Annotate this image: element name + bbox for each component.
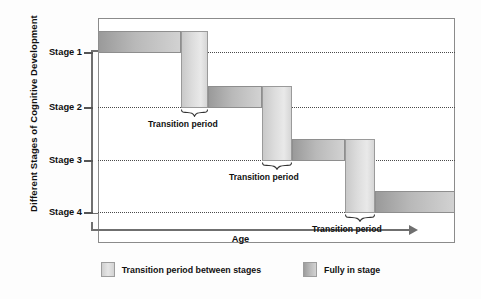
bar-fully-in-stage-1 — [98, 31, 181, 53]
y-tick-stage-1 — [84, 52, 93, 54]
y-tick-stage-2 — [84, 107, 93, 109]
legend-swatch-transition-icon — [101, 262, 115, 277]
bar-transition-1-to-2 — [181, 31, 208, 108]
brace-icon-transition-3 — [345, 214, 375, 222]
bar-fully-in-stage-4 — [375, 191, 455, 213]
y-tick-stage-3 — [84, 160, 93, 162]
legend-item-fully-in-stage: Fully in stage — [303, 262, 380, 277]
bar-transition-2-to-3 — [262, 86, 292, 161]
y-axis-line — [91, 50, 93, 214]
legend-swatch-stage-icon — [303, 262, 317, 277]
x-axis-title: Age — [0, 234, 481, 244]
y-axis-title: Different Stages of Cognitive Developmen… — [28, 4, 39, 224]
bar-transition-3-to-4 — [345, 139, 375, 213]
transition-label-2: Transition period — [229, 172, 299, 182]
bar-fully-in-stage-3 — [292, 139, 345, 161]
legend-label-fully-in-stage: Fully in stage — [324, 265, 380, 275]
brace-icon-transition-2 — [262, 162, 292, 170]
bar-fully-in-stage-2 — [208, 86, 262, 108]
brace-icon-transition-1 — [181, 109, 208, 117]
legend: Transition period between stages Fully i… — [0, 262, 481, 277]
legend-item-transition: Transition period between stages — [101, 262, 261, 277]
x-axis-arrow-icon — [409, 225, 418, 235]
transition-label-1: Transition period — [148, 119, 218, 129]
legend-label-transition: Transition period between stages — [122, 265, 261, 275]
y-tick-stage-4 — [84, 212, 93, 214]
cognitive-development-step-diagram: Stage 1 Stage 2 Stage 3 Stage 4 Differen… — [0, 0, 481, 299]
transition-label-3: Transition period — [312, 224, 382, 234]
